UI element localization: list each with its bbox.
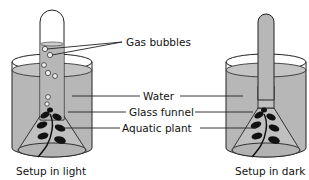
label-aquatic-plant: Aquatic plant [122,123,192,134]
setup-light [12,10,92,157]
caption-setup-dark: Setup in dark [235,166,305,177]
label-glass-funnel: Glass funnel [129,107,194,118]
caption-setup-light: Setup in light [16,166,86,177]
label-water: Water [143,91,174,102]
label-gas-bubbles: Gas bubbles [126,37,191,48]
setup-dark [226,14,306,157]
